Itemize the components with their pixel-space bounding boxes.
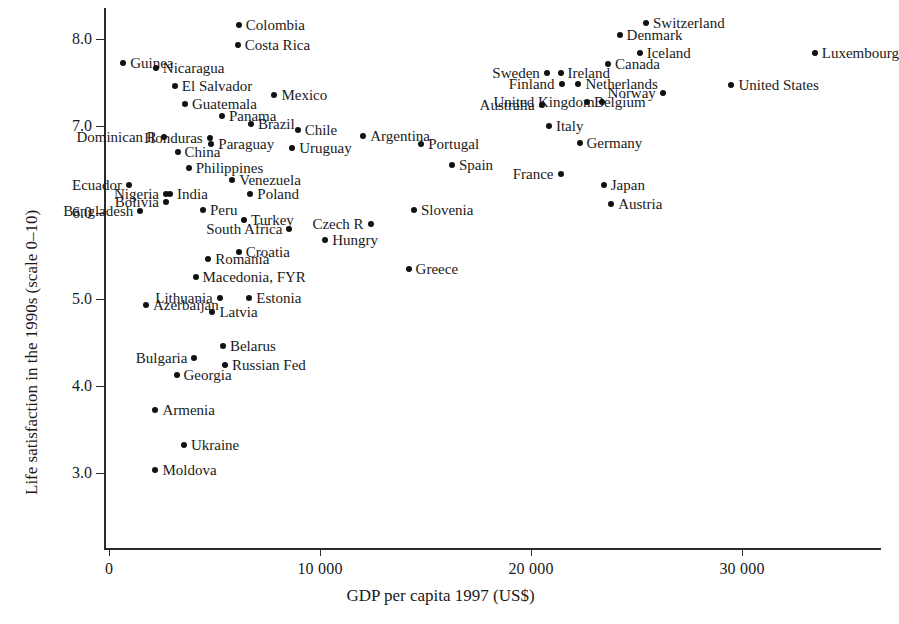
data-point <box>120 60 126 66</box>
data-point <box>186 165 192 171</box>
data-point-label: Armenia <box>162 402 214 417</box>
data-point-label: Czech R <box>312 216 363 231</box>
data-point <box>152 467 158 473</box>
data-point <box>617 32 623 38</box>
data-point <box>558 70 564 76</box>
data-point-label: Greece <box>416 262 458 277</box>
x-tick-label: 0 <box>105 560 113 578</box>
data-point-label: South Africa <box>206 222 282 237</box>
data-point-label: France <box>513 167 554 182</box>
data-point <box>200 207 206 213</box>
y-axis-title: Life satisfaction in the 1990s (scale 0–… <box>22 210 42 495</box>
data-point <box>246 295 252 301</box>
x-tick-mark <box>531 549 532 556</box>
data-point <box>209 309 215 315</box>
data-point <box>322 237 328 243</box>
y-tick-mark <box>96 386 104 387</box>
y-tick-mark <box>96 39 104 40</box>
data-point-label: Peru <box>210 202 238 217</box>
data-point-label: Mexico <box>281 87 327 102</box>
data-point <box>660 90 666 96</box>
data-point <box>812 50 818 56</box>
data-point-label: Bangladesh <box>63 203 133 218</box>
data-point <box>229 177 235 183</box>
data-point <box>539 102 545 108</box>
data-point-label: China <box>185 144 221 159</box>
data-point-label: India <box>177 187 208 202</box>
y-tick-mark <box>96 299 104 300</box>
y-tick-mark <box>96 473 104 474</box>
y-tick-label: 5.0 <box>50 290 92 308</box>
data-point-label: Venezuela <box>239 172 301 187</box>
data-point <box>220 343 226 349</box>
data-point <box>411 207 417 213</box>
y-tick-label: 3.0 <box>50 464 92 482</box>
data-point <box>219 113 225 119</box>
data-point <box>174 372 180 378</box>
y-axis-line <box>104 8 106 550</box>
data-point-label: Canada <box>615 57 660 72</box>
data-point <box>182 101 188 107</box>
data-point-label: Moldova <box>162 462 216 477</box>
data-point-label: Austria <box>618 196 662 211</box>
y-tick-label: 8.0 <box>50 30 92 48</box>
data-point-label: Russian Fed <box>232 357 306 372</box>
data-point <box>728 82 734 88</box>
data-point-label: Denmark <box>627 27 683 42</box>
data-point <box>181 442 187 448</box>
x-tick-label: 30 000 <box>719 560 764 578</box>
data-point-label: Uruguay <box>299 141 352 156</box>
y-tick-label: 4.0 <box>50 377 92 395</box>
data-point-label: Colombia <box>246 18 305 33</box>
data-point-label: Hungry <box>332 233 378 248</box>
data-point <box>191 355 197 361</box>
data-point-label: Macedonia, FYR <box>203 269 306 284</box>
data-point <box>205 256 211 262</box>
data-point-label: Portugal <box>428 137 479 152</box>
y-tick-mark <box>96 126 104 127</box>
data-point <box>286 226 292 232</box>
data-point-label: Estonia <box>256 290 301 305</box>
data-point <box>575 81 581 87</box>
data-point <box>172 83 178 89</box>
data-point-label: Bulgaria <box>136 350 188 365</box>
data-point <box>295 127 301 133</box>
data-point <box>546 123 552 129</box>
data-point <box>143 302 149 308</box>
data-point-label: El Salvador <box>182 78 252 93</box>
data-point-label: Romania <box>215 252 269 267</box>
data-point <box>406 266 412 272</box>
data-point-label: Poland <box>257 187 299 202</box>
data-point <box>418 141 424 147</box>
data-point <box>449 162 455 168</box>
x-tick-mark <box>109 549 110 556</box>
data-point-label: Finland <box>509 77 555 92</box>
data-point <box>167 191 173 197</box>
x-tick-mark <box>742 549 743 556</box>
data-point <box>235 42 241 48</box>
data-point <box>368 221 374 227</box>
data-point-label: Germany <box>587 136 643 151</box>
data-point <box>152 407 158 413</box>
data-point-label: Japan <box>611 177 645 192</box>
x-tick-mark <box>320 549 321 556</box>
data-point <box>193 274 199 280</box>
data-point <box>608 201 614 207</box>
data-point-label: Ukraine <box>191 438 239 453</box>
data-point-label: Paraguay <box>218 137 274 152</box>
data-point-label: Costa Rica <box>245 38 310 53</box>
x-tick-label: 20 000 <box>508 560 553 578</box>
data-point <box>360 133 366 139</box>
data-point <box>236 22 242 28</box>
data-point <box>559 81 565 87</box>
data-point-label: Latvia <box>219 304 257 319</box>
data-point-label: Luxembourg <box>822 45 899 60</box>
data-point <box>558 171 564 177</box>
data-point-label: United States <box>738 78 818 93</box>
x-tick-label: 10 000 <box>297 560 342 578</box>
data-point-label: Brazil <box>258 117 295 132</box>
data-point <box>577 140 583 146</box>
data-point-label: Australia <box>480 97 535 112</box>
data-point <box>175 149 181 155</box>
